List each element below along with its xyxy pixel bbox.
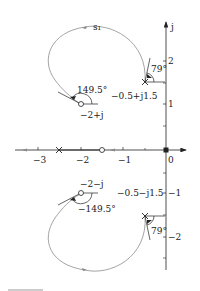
tick-label-re-0: 0	[168, 155, 174, 165]
pole-marker-origin	[164, 148, 169, 153]
arrival-angle-upper-label: 149.5°	[77, 85, 107, 95]
tick-label-re-minus1: −1	[118, 155, 131, 165]
tick-label-re-minus2: −2	[76, 155, 89, 165]
departure-angle-lower-label: 79°	[151, 226, 167, 236]
tick-label-im-minus2: −2	[168, 232, 181, 242]
tick-label-im-minus1: −1	[168, 188, 181, 198]
tick-label-im-1: 1	[168, 99, 174, 109]
zero-label-upper: −2+j	[80, 110, 104, 120]
zero-marker-upper	[79, 102, 84, 107]
tick-label-im-2: 2	[168, 56, 174, 66]
pole-label-lower: −0.5−j1.5	[117, 188, 164, 198]
zero-label-lower: −2−j	[80, 179, 104, 189]
departure-angle-upper-label: 79°	[151, 64, 167, 74]
imag-axis-label: j	[170, 22, 174, 32]
root-locus-diagram: −3 −2 −1 0 j 2 1 −1 −2 s₁ 79°	[0, 0, 200, 291]
arrival-angle-lower-label: −149.5°	[78, 204, 116, 214]
pole-label-upper: −0.5+j1.5	[111, 91, 158, 101]
curve-label: s₁	[93, 22, 101, 32]
tick-label-re-minus3: −3	[33, 155, 47, 165]
zero-marker-lower	[79, 191, 84, 196]
zero-marker-real	[100, 148, 105, 153]
